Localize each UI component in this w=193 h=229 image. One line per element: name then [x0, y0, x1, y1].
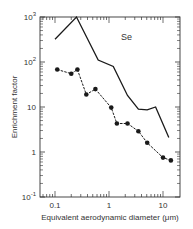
y-tick-label: 103	[24, 11, 37, 22]
y-axis-label: Enrichment factor	[10, 75, 19, 138]
series-line-0	[55, 17, 169, 138]
data-point-marker	[125, 121, 130, 126]
enrichment-factor-chart: 10-11101021030.1110 Se Equivalent aerody…	[0, 0, 193, 229]
y-tick-label: 1	[32, 148, 37, 157]
element-annotation: Se	[121, 32, 132, 42]
data-point-marker	[169, 158, 174, 163]
series-line-1	[57, 70, 171, 161]
data-series	[55, 17, 173, 163]
x-axis-label: Equivalent aerodynamic diameter (μm)	[41, 213, 179, 222]
data-point-marker	[109, 105, 114, 110]
y-tick-label: 10	[27, 103, 36, 112]
data-point-marker	[84, 92, 89, 97]
x-tick-label: 1	[107, 201, 112, 210]
data-point-marker	[145, 141, 150, 146]
data-point-marker	[75, 67, 80, 72]
data-point-marker	[93, 87, 98, 92]
data-point-marker	[69, 71, 74, 76]
data-point-marker	[161, 155, 166, 160]
data-point-marker	[115, 121, 120, 126]
plot-axes: 10-11101021030.1110	[22, 11, 180, 210]
x-tick-label: 10	[159, 201, 168, 210]
y-tick-label: 102	[24, 56, 37, 67]
data-point-marker	[55, 67, 60, 72]
data-point-marker	[136, 129, 141, 134]
y-tick-label: 10-1	[22, 191, 37, 202]
x-tick-label: 0.1	[49, 201, 61, 210]
